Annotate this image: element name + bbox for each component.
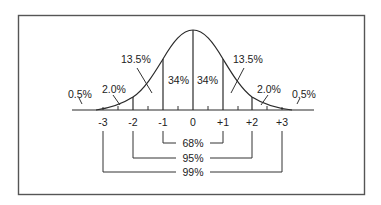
bracket-label-95: 95% — [182, 152, 203, 164]
label-left-34: 34% — [168, 74, 189, 86]
tick-label-p3: +3 — [276, 116, 288, 128]
tick-label-m2: -2 — [128, 116, 137, 128]
label-left-13-5: 13.5% — [121, 53, 151, 65]
tick-label-m3: -3 — [98, 116, 107, 128]
label-right-13-5: 13.5% — [233, 53, 263, 65]
tick-label-p2: +2 — [246, 116, 258, 128]
tick-label-m1: -1 — [158, 116, 167, 128]
bell-curve-diagram: 13.5% 2.0% 0.5% 34% 34% 13.5% 2.0% 0.5% … — [0, 0, 381, 205]
label-right-0-5: 0.5% — [292, 88, 316, 100]
bracket-label-68: 68% — [182, 137, 203, 149]
label-left-0-5: 0.5% — [68, 88, 92, 100]
tick-label-p1: +1 — [217, 116, 229, 128]
label-right-34: 34% — [197, 74, 218, 86]
bracket-label-99: 99% — [182, 166, 203, 178]
label-right-2-0: 2.0% — [257, 83, 281, 95]
label-left-2-0: 2.0% — [102, 83, 126, 95]
tick-label-0: 0 — [190, 116, 196, 128]
